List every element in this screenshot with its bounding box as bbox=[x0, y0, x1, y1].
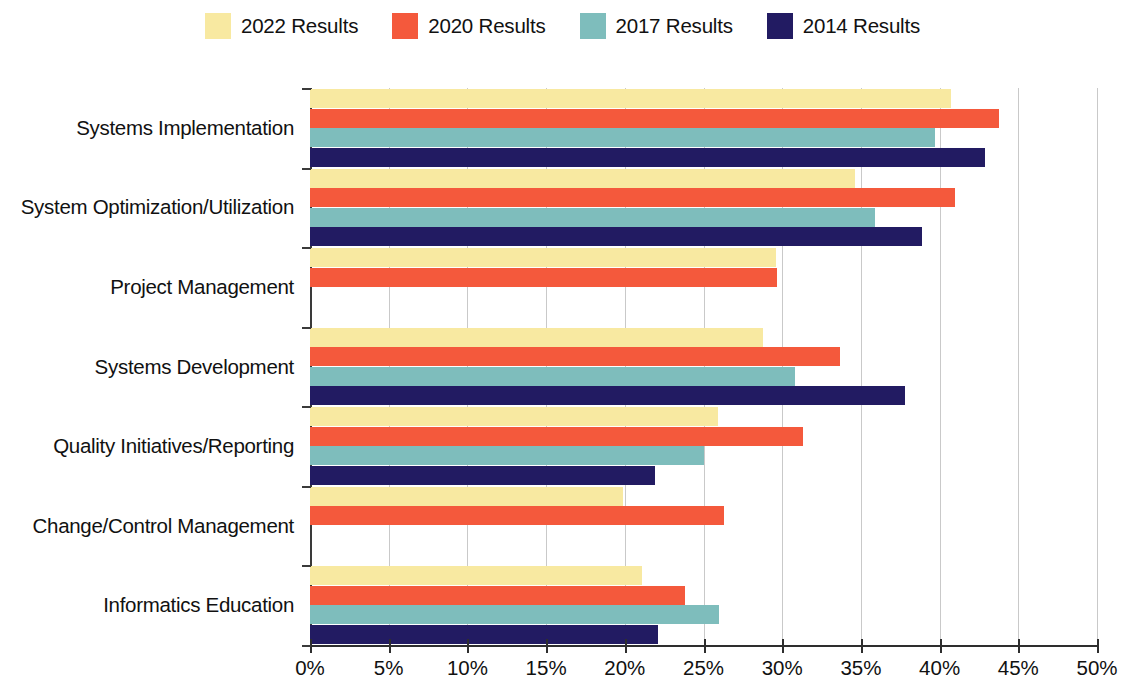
legend-label: 2014 Results bbox=[803, 14, 920, 38]
x-axis-tick bbox=[704, 639, 706, 653]
y-axis-category-labels: Systems ImplementationSystem Optimizatio… bbox=[0, 88, 302, 645]
bar bbox=[310, 128, 935, 147]
y-axis-tick bbox=[302, 565, 311, 567]
bar bbox=[310, 446, 704, 465]
y-axis-tick bbox=[302, 247, 311, 249]
legend-item[interactable]: 2017 Results bbox=[580, 13, 733, 39]
x-axis-tick bbox=[940, 639, 942, 653]
y-axis-tick bbox=[302, 88, 311, 90]
bar bbox=[310, 347, 840, 366]
legend-item[interactable]: 2020 Results bbox=[392, 13, 545, 39]
legend-swatch-icon bbox=[392, 13, 418, 39]
gridline bbox=[1018, 88, 1019, 645]
bar bbox=[310, 89, 951, 108]
gridline bbox=[1097, 88, 1098, 645]
bar-chart: Systems ImplementationSystem Optimizatio… bbox=[0, 52, 1125, 678]
y-axis-label: Quality Initiatives/Reporting bbox=[0, 434, 294, 458]
x-axis-tick-label: 40% bbox=[919, 656, 960, 678]
bar bbox=[310, 328, 763, 347]
x-axis-tick bbox=[389, 639, 391, 653]
bar bbox=[310, 586, 685, 605]
x-axis-tick-label: 0% bbox=[295, 656, 325, 678]
bar bbox=[310, 625, 658, 644]
legend-item[interactable]: 2022 Results bbox=[205, 13, 358, 39]
bar bbox=[310, 427, 803, 446]
y-axis-label: Change/Control Management bbox=[0, 514, 294, 538]
bar bbox=[310, 268, 777, 287]
y-axis-label: Informatics Education bbox=[0, 593, 294, 617]
chart-legend: 2022 Results2020 Results2017 Results2014… bbox=[0, 0, 1125, 52]
bar bbox=[310, 169, 855, 188]
x-axis-tick bbox=[546, 639, 548, 653]
bar bbox=[310, 227, 922, 246]
legend-label: 2022 Results bbox=[241, 14, 358, 38]
x-axis-tick bbox=[1018, 639, 1020, 653]
x-axis-tick-label: 15% bbox=[526, 656, 567, 678]
bar bbox=[310, 566, 642, 585]
legend-swatch-icon bbox=[767, 13, 793, 39]
x-axis-tick bbox=[1097, 639, 1099, 653]
bar bbox=[310, 407, 718, 426]
bar bbox=[310, 109, 999, 128]
y-axis-label: Systems Development bbox=[0, 355, 294, 379]
y-axis-label: System Optimization/Utilization bbox=[0, 195, 294, 219]
y-axis-tick bbox=[302, 645, 311, 647]
legend-swatch-icon bbox=[580, 13, 606, 39]
x-axis-tick-label: 35% bbox=[840, 656, 881, 678]
bar bbox=[310, 386, 905, 405]
x-axis-tick bbox=[467, 639, 469, 653]
x-axis-tick-label: 25% bbox=[683, 656, 724, 678]
x-axis-tick-label: 30% bbox=[762, 656, 803, 678]
bar bbox=[310, 605, 719, 624]
bar bbox=[310, 367, 795, 386]
x-axis-tick-label: 5% bbox=[374, 656, 404, 678]
y-axis-label: Project Management bbox=[0, 275, 294, 299]
legend-item[interactable]: 2014 Results bbox=[767, 13, 920, 39]
y-axis-tick bbox=[302, 406, 311, 408]
x-axis-tick-label: 50% bbox=[1076, 656, 1117, 678]
y-axis-tick bbox=[302, 327, 311, 329]
x-axis-tick-label: 20% bbox=[604, 656, 645, 678]
x-axis-tick bbox=[782, 639, 784, 653]
y-axis-label: Systems Implementation bbox=[0, 116, 294, 140]
bar bbox=[310, 208, 875, 227]
bar bbox=[310, 148, 985, 167]
x-axis-tick bbox=[861, 639, 863, 653]
bar bbox=[310, 248, 776, 267]
legend-label: 2020 Results bbox=[428, 14, 545, 38]
bar bbox=[310, 188, 955, 207]
plot-area bbox=[310, 88, 1097, 645]
legend-label: 2017 Results bbox=[616, 14, 733, 38]
gridline bbox=[861, 88, 862, 645]
y-axis-tick bbox=[302, 486, 311, 488]
x-axis-tick-label: 10% bbox=[447, 656, 488, 678]
y-axis-tick bbox=[302, 168, 311, 170]
bar bbox=[310, 466, 655, 485]
x-axis-tick bbox=[625, 639, 627, 653]
x-axis-tick-label: 45% bbox=[998, 656, 1039, 678]
bar bbox=[310, 506, 724, 525]
bar bbox=[310, 487, 623, 506]
gridline bbox=[940, 88, 941, 645]
legend-swatch-icon bbox=[205, 13, 231, 39]
